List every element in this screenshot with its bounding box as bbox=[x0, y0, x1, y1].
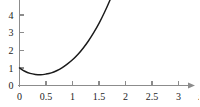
y-tick-labels: 01234 bbox=[9, 10, 14, 91]
x-tick-label: 1.5 bbox=[93, 91, 106, 102]
plot-curve bbox=[20, 0, 115, 75]
y-tick-label: 4 bbox=[9, 10, 14, 21]
x-tick-labels: 00.511.522.53 bbox=[17, 91, 181, 102]
x-axis-label: x bbox=[198, 91, 200, 102]
x-tick-label: 2.5 bbox=[146, 91, 159, 102]
axes-group bbox=[18, 0, 196, 89]
y-tick-label: 1 bbox=[9, 63, 14, 74]
x-axis-arrowhead bbox=[188, 82, 195, 88]
x-tick-label: 0 bbox=[17, 91, 22, 102]
chart-svg: 00.511.522.53 01234 x bbox=[0, 0, 199, 107]
x-tick-label: 1 bbox=[70, 91, 75, 102]
y-tick-label: 0 bbox=[9, 80, 14, 91]
x-tick-label: 2 bbox=[123, 91, 128, 102]
x-tick-label: 0.5 bbox=[40, 91, 53, 102]
x-tick-label: 3 bbox=[176, 91, 181, 102]
figure-canvas: 00.511.522.53 01234 x bbox=[0, 0, 199, 107]
y-tick-label: 2 bbox=[9, 45, 14, 56]
y-tick-label: 3 bbox=[9, 27, 14, 38]
